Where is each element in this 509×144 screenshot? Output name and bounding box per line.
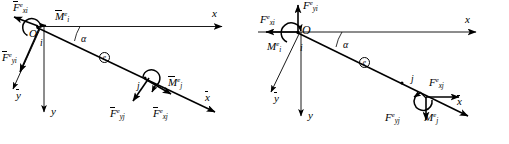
local-panel-element-marker: e bbox=[99, 52, 110, 63]
global-panel-node-i-label: i bbox=[300, 44, 303, 54]
local-panel-global-x-axis-label: x bbox=[212, 8, 217, 19]
local-panel-local-x-axis-label: x bbox=[205, 92, 210, 103]
global-coordinate-diagram: Fexi Feyi Mei Fexj Feyj Mej x y y x O i … bbox=[254, 0, 509, 144]
local-coordinate-diagram: Fexi Mei Feyi Feyj Fexj Mej x y y x O i … bbox=[0, 0, 255, 144]
local-force-xi-label: Fexi bbox=[13, 2, 28, 16]
beam-element-force-diagram: Fexi Mei Feyi Feyj Fexj Mej x y y x O i … bbox=[0, 0, 509, 144]
global-panel-origin-label: O bbox=[302, 24, 311, 36]
global-panel-local-x-axis-label: x bbox=[457, 96, 462, 107]
global-panel-local-y-axis-label: y bbox=[274, 93, 279, 104]
global-panel-global-x-axis-label: x bbox=[465, 14, 470, 25]
local-force-xj-label: Fexj bbox=[153, 108, 168, 122]
global-moment-i-label: Mei bbox=[267, 41, 281, 55]
local-panel-alpha-arc bbox=[75, 27, 81, 42]
global-force-xi-label: Fexi bbox=[260, 14, 275, 28]
global-force-yj-label: Feyj bbox=[385, 112, 400, 126]
global-panel-angle-label: α bbox=[343, 40, 348, 50]
global-panel-alpha-arc bbox=[336, 32, 342, 47]
local-force-yi-label: Feyi bbox=[2, 52, 17, 66]
global-diagram-graphics bbox=[254, 0, 509, 144]
local-panel-node-j-label: j bbox=[137, 82, 140, 92]
local-moment-j-label: Mej bbox=[168, 77, 182, 91]
local-panel-local-y-axis-label: y bbox=[16, 90, 21, 101]
local-panel-angle-label: α bbox=[81, 34, 86, 44]
global-panel-element-marker: e bbox=[359, 57, 370, 68]
global-moment-j-label: Mej bbox=[424, 112, 438, 126]
global-panel-node-j-marker bbox=[401, 82, 404, 85]
local-force-yj-arrow bbox=[133, 78, 149, 101]
beam-element-axis-global bbox=[298, 33, 468, 116]
local-moment-j-arc bbox=[143, 70, 160, 92]
global-panel-global-y-axis-label: y bbox=[308, 110, 313, 121]
global-force-xj-label: Fexj bbox=[429, 77, 444, 91]
global-force-yi-label: Feyi bbox=[303, 0, 318, 14]
local-panel-global-y-axis-label: y bbox=[51, 106, 56, 117]
local-moment-i-label: Mei bbox=[55, 11, 69, 25]
global-panel-node-j-label: j bbox=[411, 75, 414, 85]
local-force-yj-label: Feyj bbox=[110, 108, 125, 122]
local-panel-node-i-label: i bbox=[40, 39, 43, 49]
local-diagram-graphics bbox=[0, 0, 255, 144]
beam-element-axis-local bbox=[38, 28, 215, 112]
local-panel-origin-label: O bbox=[29, 28, 37, 39]
